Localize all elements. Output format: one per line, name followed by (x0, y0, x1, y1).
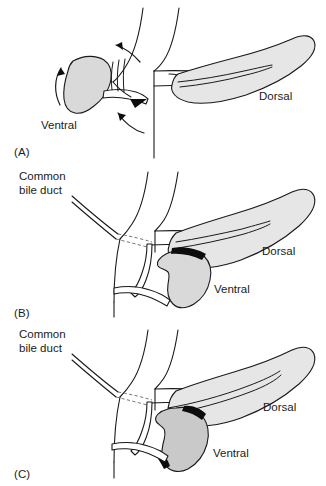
duct-bundle-line-3 (123, 59, 125, 92)
label-common-bile-duct-line1-C: Common (19, 328, 66, 340)
common-bile-duct-line-2-B (72, 202, 116, 239)
gut-tube-right-line-C (155, 330, 178, 389)
common-bile-duct-line-1-B (72, 196, 118, 234)
duct-bundle-line-1 (111, 62, 113, 90)
duodenal-loop-duct-B (114, 287, 170, 306)
dorsal-pancreas-A (172, 36, 315, 103)
label-dorsal-A: Dorsal (259, 90, 292, 102)
panel-c: Common bile duct Dorsal Ventral (0, 322, 326, 486)
rotation-arrow-lower-head (118, 113, 126, 121)
gut-tube-left-line-B (120, 172, 148, 239)
panel-caption-c: (C) (14, 468, 30, 480)
panel-caption-a: (A) (14, 146, 30, 158)
panel-a-drawing: Ventral Dorsal (0, 0, 326, 165)
ventral-pancreas-A (64, 56, 112, 113)
gut-tube-left-line-C (120, 330, 148, 397)
label-ventral-B: Ventral (214, 283, 250, 295)
label-dorsal-B: Dorsal (262, 245, 295, 257)
label-common-bile-duct-line1-B: Common (19, 170, 66, 182)
panel-c-drawing: Common bile duct Dorsal Ventral (0, 322, 326, 486)
duodenum-left-wall-C (114, 397, 120, 462)
panel-caption-b: (B) (14, 307, 30, 319)
panel-b: Common bile duct Dorsal Ventral (0, 160, 326, 325)
label-common-bile-duct-line2-B: bile duct (19, 184, 63, 196)
duodenal-loop-duct-C (112, 443, 168, 462)
label-ventral-A: Ventral (41, 119, 77, 131)
panel-a: Ventral Dorsal (0, 0, 326, 165)
common-bile-duct-line-1-C (72, 354, 118, 392)
pancreas-development-figure: Ventral Dorsal (A) (0, 0, 326, 486)
label-common-bile-duct-line2-C: bile duct (19, 342, 63, 354)
common-bile-duct-line-2-C (72, 360, 116, 397)
gut-tube-right-upper (154, 8, 179, 71)
label-dorsal-C: Dorsal (263, 401, 296, 413)
gut-tube-right-line-B (155, 172, 178, 231)
label-ventral-C: Ventral (213, 447, 249, 459)
panel-b-drawing: Common bile duct Dorsal Ventral (0, 160, 326, 325)
